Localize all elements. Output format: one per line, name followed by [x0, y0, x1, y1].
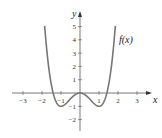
x-tick-label: 2	[116, 97, 120, 105]
x-tick-label: −3	[19, 97, 27, 105]
y-axis-label: y	[71, 8, 77, 19]
function-plot: −3−2−1123−2−112345xyf(x)	[0, 0, 162, 138]
y-tick-label: 5	[73, 23, 77, 31]
curve-label: f(x)	[119, 34, 134, 46]
x-tick-label: −1	[57, 97, 65, 105]
y-tick-label: −1	[69, 103, 77, 111]
y-tick-label: 1	[73, 76, 77, 84]
y-tick-label: 2	[73, 63, 77, 71]
x-tick-label: 3	[135, 97, 139, 105]
y-tick-label: 3	[73, 50, 77, 58]
x-axis-arrow-icon	[146, 91, 152, 95]
y-tick-label: −2	[69, 116, 77, 124]
x-axis-label: x	[152, 94, 158, 105]
y-axis-arrow-icon	[78, 11, 82, 17]
x-tick-label: −2	[38, 97, 46, 105]
y-tick-label: 4	[73, 36, 77, 44]
x-tick-label: 1	[97, 97, 101, 105]
